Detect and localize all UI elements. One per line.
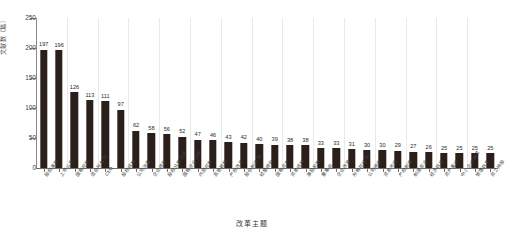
bar-value-label: 25 bbox=[441, 145, 447, 152]
bar-item: 39 bbox=[267, 18, 282, 168]
bar-item: 43 bbox=[221, 18, 236, 168]
bar-value-label: 33 bbox=[318, 140, 324, 147]
bar-item: 25 bbox=[467, 18, 482, 168]
bar-value-label: 33 bbox=[333, 140, 339, 147]
bar-value-label: 29 bbox=[395, 142, 401, 149]
x-axis-tick-labels: 股权激励上市公司国有控股混合所有制CEO股权结构公司治理企业绩效股权分置改革国有… bbox=[36, 169, 498, 219]
bar-item: 33 bbox=[313, 18, 328, 168]
bar-item: 111 bbox=[98, 18, 113, 168]
bar-rect bbox=[333, 148, 340, 168]
bar-value-label: 27 bbox=[410, 143, 416, 150]
bar-item: 38 bbox=[282, 18, 297, 168]
bar-value-label: 43 bbox=[225, 134, 231, 141]
bar-rect bbox=[271, 145, 278, 168]
bar-value-label: 25 bbox=[487, 145, 493, 152]
bar-item: 25 bbox=[452, 18, 467, 168]
bar-item: 197 bbox=[36, 18, 51, 168]
bar-item: 113 bbox=[82, 18, 97, 168]
bar-value-label: 97 bbox=[118, 101, 124, 108]
bar-rect bbox=[86, 100, 93, 168]
bar-value-label: 56 bbox=[164, 126, 170, 133]
bar-value-label: 196 bbox=[54, 42, 63, 49]
bar-item: 27 bbox=[406, 18, 421, 168]
bar-value-label: 25 bbox=[456, 145, 462, 152]
bar-value-label: 31 bbox=[349, 141, 355, 148]
bar-value-label: 40 bbox=[256, 136, 262, 143]
bar-item: 46 bbox=[205, 18, 220, 168]
x-axis-title: 改革主题 bbox=[0, 218, 504, 228]
bar-value-label: 38 bbox=[287, 137, 293, 144]
bar-series: 1971961261131119762585652474643424039383… bbox=[36, 18, 498, 168]
bar-value-label: 47 bbox=[195, 131, 201, 138]
bar-rect bbox=[55, 50, 62, 168]
bar-item: 62 bbox=[128, 18, 143, 168]
bar-item: 31 bbox=[344, 18, 359, 168]
bar-rect bbox=[40, 50, 47, 168]
bar-value-label: 111 bbox=[101, 93, 110, 100]
bar-item: 30 bbox=[375, 18, 390, 168]
bar-value-label: 46 bbox=[210, 132, 216, 139]
bar-item: 126 bbox=[67, 18, 82, 168]
bar-value-label: 197 bbox=[39, 41, 48, 48]
bar-value-label: 58 bbox=[148, 125, 154, 132]
bar-value-label: 62 bbox=[133, 122, 139, 129]
bar-item: 30 bbox=[359, 18, 374, 168]
bar-rect bbox=[71, 92, 78, 168]
bar-value-label: 52 bbox=[179, 128, 185, 135]
bar-item: 33 bbox=[329, 18, 344, 168]
bar-item: 29 bbox=[390, 18, 405, 168]
bar-item: 97 bbox=[113, 18, 128, 168]
bar-value-label: 30 bbox=[379, 142, 385, 149]
bar-value-label: 126 bbox=[70, 84, 79, 91]
bar-value-label: 42 bbox=[241, 134, 247, 141]
bar-item: 47 bbox=[190, 18, 205, 168]
bar-item: 25 bbox=[436, 18, 451, 168]
bar-item: 40 bbox=[252, 18, 267, 168]
bar-item: 196 bbox=[51, 18, 66, 168]
bar-value-label: 30 bbox=[364, 142, 370, 149]
y-tick-label: 0 bbox=[0, 163, 36, 173]
bar-value-label: 113 bbox=[85, 92, 94, 99]
bar-value-label: 26 bbox=[426, 144, 432, 151]
bar-item: 38 bbox=[298, 18, 313, 168]
bar-value-label: 38 bbox=[302, 137, 308, 144]
bar-value-label: 39 bbox=[272, 136, 278, 143]
bar-item: 42 bbox=[236, 18, 251, 168]
bar-item: 26 bbox=[421, 18, 436, 168]
y-axis-title: 文献数（篇） bbox=[0, 6, 7, 66]
bar-rect bbox=[117, 110, 124, 168]
bar-item: 52 bbox=[175, 18, 190, 168]
bar-item: 25 bbox=[483, 18, 498, 168]
clipped-header-strip bbox=[0, 0, 504, 9]
bar-item: 56 bbox=[159, 18, 174, 168]
bar-item: 58 bbox=[144, 18, 159, 168]
